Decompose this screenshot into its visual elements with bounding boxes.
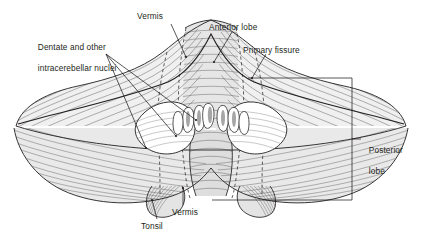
- label-vermis-top: Vermis: [137, 11, 163, 22]
- label-primary-fissure: Primary fissure: [243, 45, 300, 56]
- label-posterior-line1: Posterior: [369, 145, 403, 155]
- label-vermis-bottom: Vermis: [172, 207, 198, 218]
- label-dentate-nuclei: Dentate and other intracerebellar nuclei: [33, 31, 117, 73]
- label-posterior-line2: lobe: [369, 166, 385, 176]
- cerebellum-diagram: Dentate and other intracerebellar nuclei…: [0, 0, 422, 244]
- label-dentate-line1: Dentate and other: [38, 42, 106, 52]
- label-tonsil: Tonsil: [141, 221, 163, 232]
- label-anterior-lobe: Anterior lobe: [209, 22, 257, 33]
- label-posterior-lobe: Posterior lobe: [364, 134, 403, 176]
- label-dentate-line2: intracerebellar nuclei: [38, 63, 117, 73]
